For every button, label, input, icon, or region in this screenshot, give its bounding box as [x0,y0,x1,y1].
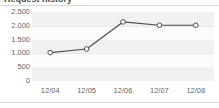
y-axis-tick-label: 2.500 [2,8,30,16]
y-axis-tick-label: 0 [2,77,30,85]
y-axis: 05001.0001.5002.0002.500 [0,0,30,108]
y-axis-tick-label: 1.000 [2,49,30,57]
data-point-marker[interactable] [157,23,162,28]
y-axis-tick-label: 2.000 [2,22,30,30]
chart-widget: Request history 05001.0001.5002.0002.500… [0,0,219,108]
x-axis-tick-label: 12/08 [176,86,216,95]
x-axis-tick-label: 12/07 [139,86,179,95]
x-axis-tick-label: 12/06 [103,86,143,95]
plot-area [32,12,214,81]
y-axis-tick-label: 500 [2,63,30,71]
data-point-marker[interactable] [194,23,199,28]
x-axis: 12/0412/0512/0612/0712/08 [32,86,214,98]
data-point-marker[interactable] [48,50,53,55]
data-point-marker[interactable] [84,47,89,52]
title-divider [0,5,219,6]
series-line-path [50,22,196,53]
y-axis-tick-label: 1.500 [2,36,30,44]
bottom-divider [0,102,219,103]
data-point-marker[interactable] [121,20,126,25]
x-axis-tick-label: 12/05 [67,86,107,95]
line-series [32,12,214,81]
x-axis-tick-label: 12/04 [30,86,70,95]
